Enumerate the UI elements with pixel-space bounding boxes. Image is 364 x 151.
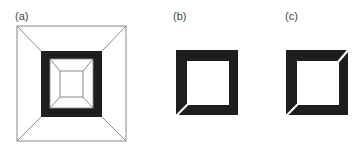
inner-diagonal-bottom-left	[50, 97, 60, 108]
diagonal-bottom-right	[102, 117, 126, 141]
diagonal-bottom-left	[17, 117, 41, 141]
panel-b-diagram	[175, 50, 238, 117]
inner-diagonal-top-right	[83, 59, 93, 71]
panel-c-diagram	[285, 48, 350, 117]
diagonal-top-right	[102, 26, 126, 51]
figure-canvas	[0, 0, 364, 151]
inner-diagonal-bottom-right	[83, 97, 93, 108]
panel-a-diagram	[17, 26, 126, 141]
diagonal-top-left	[17, 26, 41, 51]
inner-diagonal-top-left	[50, 59, 60, 71]
innermost-square	[60, 71, 83, 97]
